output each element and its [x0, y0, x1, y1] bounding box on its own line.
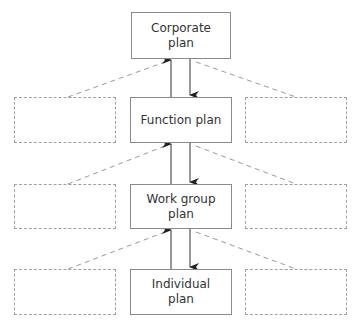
dashed-links: [68, 62, 296, 269]
side-box-right-2: [245, 184, 347, 229]
side-box-left-2: [14, 184, 116, 229]
node-label: Corporate plan: [151, 21, 211, 51]
side-box-left-1: [14, 97, 116, 143]
side-box-right-1: [245, 97, 347, 143]
side-box-left-3: [14, 269, 116, 315]
node-individual-plan: Individual plan: [130, 269, 232, 315]
node-label: Work group plan: [146, 192, 215, 222]
side-box-right-3: [245, 269, 347, 315]
node-label: Individual plan: [152, 277, 210, 307]
node-corporate-plan: Corporate plan: [131, 12, 231, 59]
node-work-group-plan: Work group plan: [130, 184, 232, 229]
node-label: Function plan: [141, 113, 222, 128]
node-function-plan: Function plan: [130, 97, 232, 143]
